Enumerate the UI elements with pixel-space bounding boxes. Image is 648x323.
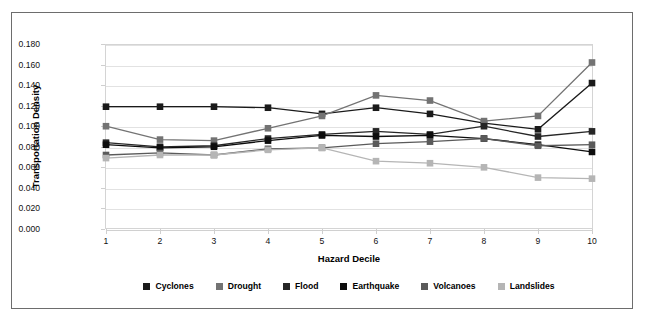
x-tick-label: 7 [415, 236, 445, 246]
legend-item-flood[interactable]: Flood [283, 281, 318, 291]
data-point-marker [373, 140, 380, 147]
legend-label: Cyclones [155, 281, 193, 291]
series-line [106, 148, 592, 179]
x-tick-mark [376, 229, 377, 234]
x-tick-mark [322, 229, 323, 234]
legend-swatch-icon [421, 283, 428, 290]
legend-label: Flood [295, 281, 318, 291]
x-tick-label: 5 [307, 236, 337, 246]
clipped-text-strip: · · · · · · [0, 0, 648, 11]
series-lines [105, 44, 593, 229]
legend-swatch-icon [216, 283, 223, 290]
data-point-marker [535, 126, 542, 133]
y-tick-mark [101, 229, 105, 230]
data-point-marker [535, 142, 542, 149]
y-tick-label: 0.080 [18, 142, 40, 152]
data-point-marker [427, 97, 434, 104]
y-tick-label: 0.000 [18, 224, 40, 234]
x-tick-label: 2 [145, 236, 175, 246]
data-point-marker [535, 113, 542, 120]
legend-swatch-icon [498, 283, 505, 290]
figure-page: · · · · · · Transportation Density 0.000… [0, 0, 648, 323]
x-tick-label: 4 [253, 236, 283, 246]
data-point-marker [319, 145, 326, 152]
legend-item-cyclones[interactable]: Cyclones [143, 281, 193, 291]
data-point-marker [481, 164, 488, 171]
x-tick-label: 6 [361, 236, 391, 246]
legend-label: Landslides [510, 281, 555, 291]
y-tick-label: 0.060 [18, 162, 40, 172]
legend-label: Volcanoes [433, 281, 475, 291]
legend-label: Drought [228, 281, 261, 291]
data-point-marker [103, 103, 110, 110]
data-point-marker [589, 80, 596, 87]
x-tick-mark [592, 229, 593, 234]
chart-legend: CyclonesDroughtFloodEarthquakeVolcanoesL… [105, 281, 593, 291]
series-drought [103, 59, 596, 144]
x-tick-label: 1 [91, 236, 121, 246]
series-line [106, 63, 592, 141]
data-point-marker [157, 136, 164, 143]
legend-item-volcanoes[interactable]: Volcanoes [421, 281, 475, 291]
clipped-text: · · · · · · [36, 0, 70, 3]
data-point-marker [481, 123, 488, 130]
data-point-marker [535, 133, 542, 140]
x-tick-mark [538, 229, 539, 234]
data-point-marker [589, 175, 596, 182]
x-tick-label: 8 [469, 236, 499, 246]
data-point-marker [535, 174, 542, 181]
y-tick-label: 0.180 [18, 39, 40, 49]
data-point-marker [211, 143, 218, 150]
grid-line [106, 230, 592, 231]
data-point-marker [157, 152, 164, 159]
data-point-marker [265, 137, 272, 144]
x-tick-mark [160, 229, 161, 234]
data-point-marker [103, 141, 110, 148]
data-point-marker [427, 132, 434, 139]
y-axis-label: Transportation Density [30, 52, 41, 222]
x-tick-label: 3 [199, 236, 229, 246]
y-tick-label: 0.040 [18, 183, 40, 193]
x-tick-mark [106, 229, 107, 234]
legend-swatch-icon [283, 283, 290, 290]
data-point-marker [319, 132, 326, 139]
data-point-marker [373, 92, 380, 99]
data-point-marker [103, 123, 110, 130]
line-chart: Transportation Density 0.0000.0200.0400.… [12, 13, 632, 308]
data-point-marker [373, 158, 380, 165]
series-landslides [103, 145, 596, 182]
x-axis-label: Hazard Decile [105, 253, 593, 264]
data-point-marker [427, 160, 434, 167]
legend-item-landslides[interactable]: Landslides [498, 281, 555, 291]
legend-label: Earthquake [352, 281, 399, 291]
figure-frame: Transportation Density 0.0000.0200.0400.… [11, 12, 633, 309]
y-tick-label: 0.160 [18, 60, 40, 70]
data-point-marker [211, 152, 218, 159]
x-tick-label: 10 [577, 236, 607, 246]
legend-item-drought[interactable]: Drought [216, 281, 261, 291]
y-tick-label: 0.140 [18, 80, 40, 90]
data-point-marker [481, 135, 488, 142]
legend-swatch-icon [143, 283, 150, 290]
data-point-marker [589, 141, 596, 148]
y-tick-label: 0.100 [18, 121, 40, 131]
data-point-marker [427, 138, 434, 145]
x-tick-mark [484, 229, 485, 234]
x-tick-mark [214, 229, 215, 234]
data-point-marker [589, 128, 596, 135]
x-tick-mark [268, 229, 269, 234]
legend-item-earthquake[interactable]: Earthquake [340, 281, 399, 291]
y-tick-label: 0.020 [18, 203, 40, 213]
data-point-marker [265, 147, 272, 154]
data-point-marker [265, 125, 272, 132]
x-tick-mark [430, 229, 431, 234]
data-point-marker [373, 104, 380, 111]
data-point-marker [589, 149, 596, 156]
data-point-marker [211, 103, 218, 110]
data-point-marker [589, 59, 596, 66]
data-point-marker [427, 111, 434, 118]
data-point-marker [319, 113, 326, 120]
x-tick-label: 9 [523, 236, 553, 246]
data-point-marker [157, 103, 164, 110]
data-point-marker [103, 155, 110, 162]
